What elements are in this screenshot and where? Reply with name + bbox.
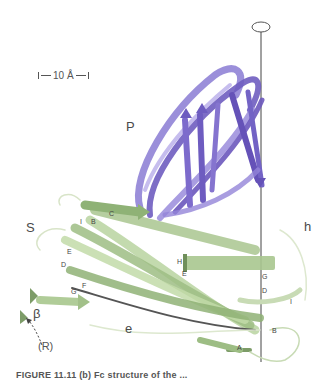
strand-label-g-left: G [71, 288, 76, 295]
strand-label-b: B [91, 218, 96, 225]
symmetry-axis-icon [252, 22, 270, 362]
scale-tick-right [88, 72, 89, 79]
strand-label-h: H [177, 258, 182, 265]
domain-label-p: P [126, 120, 135, 133]
domain-label-r: (R) [38, 341, 53, 352]
domain-label-beta: β [33, 307, 40, 320]
strand-label-e-mid: E [182, 270, 187, 277]
figure-caption: FIGURE 11.11 (b) Fc structure of the ... [16, 370, 188, 380]
scale-bar: 10 Å [38, 70, 89, 81]
domain-label-e: e [125, 322, 132, 335]
scale-line [76, 75, 86, 76]
scale-tick-left [38, 72, 39, 79]
strand-label-b-bottom: B [272, 327, 277, 334]
p-domain-ribbons [138, 69, 266, 218]
domain-label-s: S [26, 221, 35, 234]
strand-label-g-right: G [262, 273, 267, 280]
scale-line [41, 75, 51, 76]
strand-label-f: F [82, 282, 86, 289]
strand-label-d-right: D [262, 287, 267, 294]
strand-label-i-right: I [290, 298, 292, 305]
strand-label-i: I [80, 218, 82, 225]
domain-label-h: h [304, 220, 311, 233]
strand-label-d-left: D [61, 261, 66, 268]
scale-label: 10 Å [53, 70, 74, 81]
strand-label-e-left: E [67, 248, 72, 255]
strand-label-c: C [109, 210, 114, 217]
strand-label-a: A [237, 344, 242, 351]
